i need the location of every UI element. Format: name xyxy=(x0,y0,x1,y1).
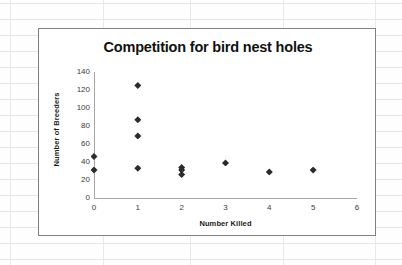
y-axis-tick-label: 60 xyxy=(81,139,90,148)
y-axis-tick-label: 140 xyxy=(77,67,90,76)
scatter-point xyxy=(178,171,185,178)
sheet-row-gridline xyxy=(0,243,402,244)
scatter-point xyxy=(91,167,98,174)
scatter-point xyxy=(134,132,141,139)
scatter-point xyxy=(310,167,317,174)
y-axis-tick-label: 0 xyxy=(86,193,90,202)
y-axis-line xyxy=(94,72,95,199)
plot-area: 020406080100120140 Number of Breeders Nu… xyxy=(39,29,376,236)
chart-object[interactable]: Competition for bird nest holes 02040608… xyxy=(38,28,376,236)
sheet-row-gridline xyxy=(0,259,402,260)
x-axis-tick-label: 3 xyxy=(216,203,236,212)
y-axis-tick-label: 20 xyxy=(81,175,90,184)
x-axis-tick-label: 5 xyxy=(303,203,323,212)
y-axis-tick-label: 120 xyxy=(77,85,90,94)
scatter-point xyxy=(134,82,141,89)
scatter-point xyxy=(134,165,141,172)
x-axis-tick-label: 4 xyxy=(259,203,279,212)
x-axis-tick-label: 0 xyxy=(84,203,104,212)
x-axis-title: Number Killed xyxy=(94,219,357,228)
x-axis-tick-label: 2 xyxy=(172,203,192,212)
y-axis-tick-label: 100 xyxy=(77,103,90,112)
scatter-point xyxy=(266,168,273,175)
y-axis-tick-label: 40 xyxy=(81,157,90,166)
sheet-row-gridline xyxy=(0,3,402,4)
x-axis-line xyxy=(94,198,357,199)
sheet-row-gridline xyxy=(0,19,402,20)
scatter-point xyxy=(222,159,229,166)
y-axis-title: Number of Breeders xyxy=(52,82,61,178)
x-axis-tick-label: 6 xyxy=(347,203,367,212)
y-axis-tick-label: 80 xyxy=(81,121,90,130)
scatter-point xyxy=(91,153,98,160)
x-axis-tick-label: 1 xyxy=(128,203,148,212)
sheet-column-gridline xyxy=(10,0,11,265)
scatter-point xyxy=(134,116,141,123)
